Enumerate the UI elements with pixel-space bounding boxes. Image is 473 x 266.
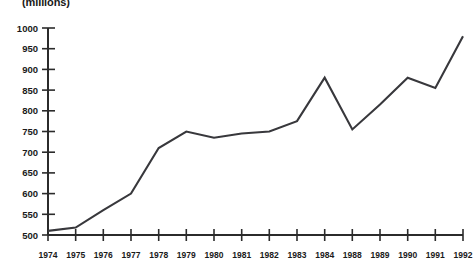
y-tick-label: 650	[22, 167, 38, 178]
x-tick-label: 1981	[232, 250, 251, 260]
x-tick-label: 1990	[398, 250, 417, 260]
x-tick-label: 1974	[39, 250, 58, 260]
y-tick-label: 850	[22, 85, 38, 96]
x-tick-label: 1984	[315, 250, 334, 260]
y-tick-label: 1000	[17, 23, 38, 34]
line-chart-plot: 1000 950 900 850 800 750 700 650 600 550…	[0, 0, 473, 266]
y-tick-label: 800	[22, 105, 38, 116]
y-axis: 1000 950 900 850 800 750 700 650 600 550…	[17, 23, 55, 241]
y-tick-label: 900	[22, 64, 38, 75]
data-series-line	[48, 36, 463, 231]
y-axis-tick-labels: 1000 950 900 850 800 750 700 650 600 550…	[17, 23, 38, 241]
x-tick-label: 1980	[205, 250, 224, 260]
x-tick-label: 1975	[66, 250, 85, 260]
x-tick-label: 1979	[177, 250, 196, 260]
y-tick-label: 700	[22, 147, 38, 158]
x-tick-label: 1976	[94, 250, 113, 260]
y-tick-label: 750	[22, 126, 38, 137]
x-axis-tick-labels: 1974 1975 1976 1977 1978 1979 1980 1981 …	[39, 250, 473, 260]
x-tick-label: 1991	[426, 250, 445, 260]
x-tick-label: 1982	[260, 250, 279, 260]
y-tick-label: 500	[22, 230, 38, 241]
y-tick-label: 550	[22, 209, 38, 220]
x-tick-label: 1977	[122, 250, 141, 260]
x-tick-label: 1988	[343, 250, 362, 260]
x-tick-label: 1978	[149, 250, 168, 260]
chart-screenshot: (millions) 1000 950 900 850	[0, 0, 473, 266]
x-tick-label: 1983	[288, 250, 307, 260]
y-tick-label: 600	[22, 188, 38, 199]
x-tick-label: 1992	[454, 250, 473, 260]
x-axis: 1974 1975 1976 1977 1978 1979 1980 1981 …	[39, 229, 473, 260]
y-tick-label: 950	[22, 43, 38, 54]
x-tick-label: 1989	[371, 250, 390, 260]
